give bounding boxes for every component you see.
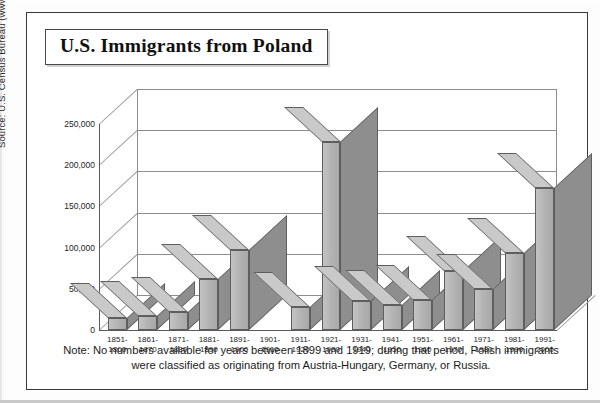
bar-column: [169, 312, 188, 330]
bar-front-face: [138, 316, 157, 330]
bar-front-face: [291, 307, 310, 330]
bar-column: [413, 300, 432, 330]
axis-depth-line: [99, 213, 138, 249]
bar-front-face: [444, 271, 463, 330]
bar-front-face: [322, 142, 341, 330]
bar-front-face: [199, 279, 218, 330]
source-citation: Source: U.S. Census Bureau (www.census.g…: [0, 0, 7, 148]
y-axis-tick-label: 200,000: [35, 160, 95, 170]
bar-column: [535, 188, 554, 330]
chart-title-box: U.S. Immigrants from Poland: [45, 29, 328, 65]
chart-title: U.S. Immigrants from Poland: [60, 35, 313, 57]
bar-column: [322, 142, 341, 330]
bar-column: [474, 289, 493, 330]
chart-plot-area: 250,000200,000150,000100,00050,00001851-…: [99, 89, 569, 337]
bar-front-face: [505, 253, 524, 330]
y-axis-tick-label: 100,000: [35, 243, 95, 253]
axis-depth-line: [99, 172, 138, 208]
bar-front-face: [108, 318, 127, 330]
bar-column: [352, 301, 371, 330]
bar-front-face: [230, 250, 249, 330]
bar-front-face: [535, 188, 554, 330]
plot-inner: 250,000200,000150,000100,00050,00001851-…: [99, 89, 569, 337]
bar-front-face: [352, 301, 371, 330]
page-canvas: Source: U.S. Census Bureau (www.census.g…: [0, 0, 600, 403]
bar-column: [444, 271, 463, 330]
y-axis-tick-label: 0: [35, 325, 95, 335]
chart-note: Note: No numbers available for years bet…: [61, 343, 561, 373]
bar-column: [230, 250, 249, 330]
figure-frame: U.S. Immigrants from Poland 250,000200,0…: [26, 12, 588, 390]
y-axis-tick-label: 150,000: [35, 201, 95, 211]
axis-depth-line: [99, 89, 138, 125]
bar-column: [108, 318, 127, 330]
bar-column: [291, 307, 310, 330]
x-axis: [99, 330, 557, 331]
y-axis-tick-label: 250,000: [35, 119, 95, 129]
bar-front-face: [413, 300, 432, 330]
axis-depth-line: [99, 130, 138, 166]
bar-column: [199, 279, 218, 330]
bar-front-face: [474, 289, 493, 330]
bar-front-face: [169, 312, 188, 330]
bar-column: [383, 305, 402, 330]
bar-front-face: [383, 305, 402, 330]
scan-edge-top: [0, 0, 600, 2]
bar-column: [505, 253, 524, 330]
bar-column: [138, 316, 157, 330]
